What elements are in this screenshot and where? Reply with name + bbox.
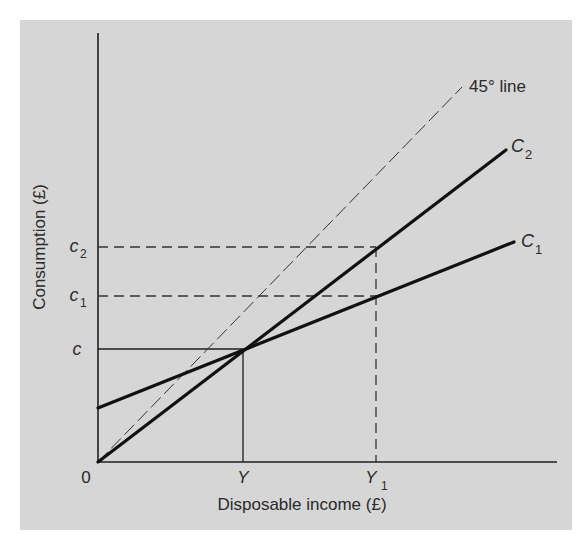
x-tick-Y: Y bbox=[237, 468, 250, 487]
y-tick-c2-subscript: 2 bbox=[80, 247, 87, 261]
y-tick-c: c bbox=[73, 339, 82, 359]
label-45-degree-line: 45° line bbox=[469, 77, 526, 96]
x-tick-Y1-subscript: 1 bbox=[381, 479, 388, 493]
label-C1: C bbox=[521, 231, 535, 251]
consumption-function-diagram: Consumption (£) Disposable income (£) 0 … bbox=[0, 0, 586, 547]
y-tick-c1-subscript: 1 bbox=[80, 296, 87, 310]
x-tick-Y1: Y bbox=[365, 468, 378, 487]
label-C1-subscript: 1 bbox=[535, 242, 542, 257]
y-axis-title: Consumption (£) bbox=[30, 184, 49, 310]
line-C1 bbox=[98, 242, 514, 408]
y-tick-c1: c bbox=[70, 285, 79, 305]
x-axis-title: Disposable income (£) bbox=[217, 495, 386, 514]
y-tick-c2: c bbox=[70, 236, 79, 256]
label-C2: C bbox=[511, 136, 525, 156]
line-45-degree bbox=[98, 87, 462, 462]
line-C2 bbox=[98, 150, 506, 462]
origin-label: 0 bbox=[81, 468, 90, 487]
label-C2-subscript: 2 bbox=[525, 147, 532, 162]
